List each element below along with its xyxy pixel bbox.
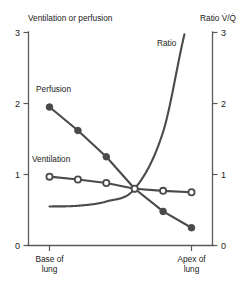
- x-label-base-line2: lung: [42, 264, 58, 274]
- ventilation-perfusion-chart: Ventilation or perfusion Ratio V̇/Q̇ 3 2…: [0, 0, 243, 291]
- perfusion-annotation: Perfusion: [36, 84, 71, 94]
- ventilation-marker: [132, 186, 138, 192]
- right-tick-label-2: 2: [221, 99, 226, 109]
- ventilation-annotation: Ventilation: [32, 154, 71, 164]
- x-label-base-line1: Base of: [35, 254, 64, 264]
- x-label-apex-line1: Apex of: [177, 254, 206, 264]
- left-tick-label-0: 0: [15, 241, 20, 251]
- chart-canvas: Ventilation or perfusion Ratio V̇/Q̇ 3 2…: [0, 0, 243, 291]
- perfusion-marker: [75, 127, 82, 134]
- right-tick-label-0: 0: [221, 241, 226, 251]
- perfusion-marker: [103, 153, 110, 160]
- ratio-annotation: Ratio: [157, 38, 177, 48]
- perfusion-marker: [160, 208, 167, 215]
- left-tick-label-2: 2: [15, 99, 20, 109]
- x-axis: Base of lung Apex of lung: [28, 246, 213, 275]
- left-axis: 3 2 1 0: [15, 28, 29, 251]
- perfusion-series: [46, 104, 195, 231]
- ventilation-marker: [160, 188, 166, 194]
- right-axis-title: Ratio V̇/Q̇: [200, 13, 237, 23]
- ventilation-marker: [188, 189, 194, 195]
- ventilation-series: [46, 174, 194, 196]
- left-tick-label-3: 3: [15, 28, 20, 38]
- perfusion-marker: [188, 224, 195, 231]
- left-axis-title: Ventilation or perfusion: [28, 13, 113, 23]
- ventilation-marker: [75, 176, 81, 182]
- perfusion-marker: [46, 104, 53, 111]
- right-axis: 3 2 1 0: [213, 28, 227, 251]
- left-tick-label-1: 1: [15, 170, 20, 180]
- right-tick-label-1: 1: [221, 170, 226, 180]
- ventilation-marker: [103, 180, 109, 186]
- right-tick-label-3: 3: [221, 28, 226, 38]
- ventilation-marker: [46, 174, 52, 180]
- ratio-series: [50, 34, 185, 206]
- x-label-apex-line2: lung: [184, 264, 200, 274]
